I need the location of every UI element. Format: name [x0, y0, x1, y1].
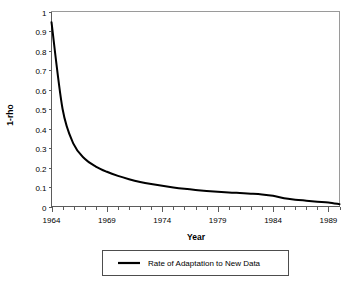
- y-axis-tick-labels: 00.10.20.30.40.50.60.70.80.91: [35, 9, 47, 213]
- series-line-rate-of-adaptation: [52, 22, 340, 204]
- series-group: [52, 22, 340, 204]
- y-tick-label: 0.2: [35, 165, 47, 174]
- x-tick-label: 1969: [98, 216, 116, 225]
- chart-figure: 00.10.20.30.40.50.60.70.80.91 1964196919…: [0, 0, 349, 283]
- x-tick-label: 1984: [264, 216, 282, 225]
- x-tick-label: 1989: [320, 216, 338, 225]
- y-tick-label: 0.6: [35, 87, 47, 96]
- y-tick-label: 0.9: [35, 28, 47, 37]
- chart-legend: Rate of Adaptation to New Data: [103, 251, 289, 276]
- y-tick-label: 0.4: [35, 126, 47, 135]
- y-tick-label: 0.1: [35, 184, 47, 193]
- x-tick-label: 1974: [153, 216, 171, 225]
- line-chart: 00.10.20.30.40.50.60.70.80.91 1964196919…: [0, 0, 349, 283]
- y-axis-title: 1-rho: [5, 104, 15, 125]
- x-tick-label: 1979: [209, 216, 227, 225]
- y-tick-label: 0.5: [35, 106, 47, 115]
- x-axis: 196419691974197919841989: [43, 207, 341, 225]
- y-tick-label: 0.8: [35, 48, 47, 57]
- y-tick-label: 0.3: [35, 145, 47, 154]
- x-tick-label: 1964: [43, 216, 61, 225]
- y-tick-label: 0: [42, 204, 47, 213]
- y-tick-label: 0.7: [35, 67, 47, 76]
- x-axis-tick-labels: 196419691974197919841989: [43, 216, 338, 225]
- y-axis: 00.10.20.30.40.50.60.70.80.91: [35, 9, 51, 213]
- y-tick-label: 1: [42, 9, 47, 18]
- legend-label-rate-of-adaptation: Rate of Adaptation to New Data: [148, 259, 261, 268]
- plot-frame: [52, 12, 340, 207]
- x-axis-title: Year: [187, 232, 206, 242]
- x-axis-minor-ticks: [53, 207, 341, 212]
